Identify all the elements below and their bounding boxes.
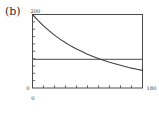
figure-panel: (b) bbox=[0, 0, 159, 113]
y-axis-min-label: 0 bbox=[26, 85, 29, 91]
chart-plot: 200 0 0 180 bbox=[0, 0, 159, 113]
x-axis-max-label: 180 bbox=[147, 85, 157, 91]
x-axis-min-label: 0 bbox=[31, 95, 34, 101]
y-axis-max-label: 200 bbox=[31, 8, 41, 14]
plot-frame bbox=[33, 15, 143, 89]
decay-curve-line bbox=[33, 15, 143, 71]
